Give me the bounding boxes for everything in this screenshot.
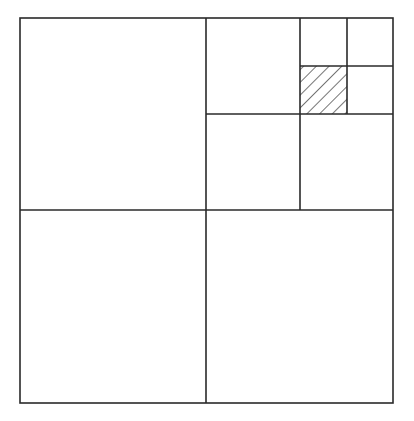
quadtree-diagram: [0, 0, 414, 421]
highlighted-cell-hatched: [300, 66, 347, 114]
